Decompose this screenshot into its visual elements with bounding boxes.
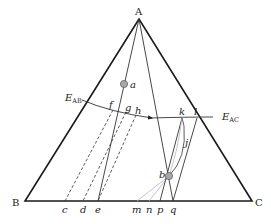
dashed-line-f-c <box>65 110 113 201</box>
base-label-q: q <box>170 204 176 215</box>
point-b <box>165 172 172 179</box>
point-label-g: g <box>125 102 131 113</box>
point-label-k: k <box>179 106 185 117</box>
vertex-label-C: C <box>255 197 263 208</box>
point-label-b: b <box>159 169 165 180</box>
point-label-l: l <box>194 106 197 117</box>
eutectic-boundary-curve-right <box>150 117 213 118</box>
point-a <box>120 80 127 87</box>
point-label-h: h <box>135 105 141 116</box>
point-label-a: a <box>130 79 136 90</box>
base-label-c: c <box>62 204 68 215</box>
base-label-p: p <box>157 204 164 215</box>
base-label-m: m <box>132 204 141 215</box>
base-label-e: e <box>95 204 101 215</box>
point-label-f: f <box>108 99 115 110</box>
vertex-label-A: A <box>134 6 143 17</box>
eutectic-label-EAC: EAC <box>221 111 239 124</box>
eutectic-label-EAB: EAB <box>64 92 82 105</box>
line-l-q <box>173 118 197 201</box>
base-label-n: n <box>146 204 152 215</box>
ternary-phase-diagram: A B C EAB EAC a b f g h j k l c d e m n … <box>0 0 271 224</box>
line-A-e <box>98 19 139 201</box>
base-label-d: d <box>80 204 86 215</box>
vertex-label-B: B <box>12 197 19 208</box>
